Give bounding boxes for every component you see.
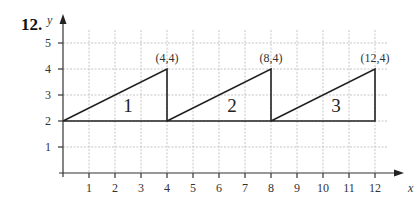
x-tick-label: 12 — [369, 181, 381, 195]
x-tick-label: 11 — [343, 181, 355, 195]
point-label: (12,4) — [361, 51, 390, 65]
x-tick-label: 3 — [138, 181, 144, 195]
x-tick-label: 10 — [317, 181, 329, 195]
y-tick-label: 1 — [45, 140, 51, 154]
labels: 12345678910111212345xy12.(4,4)(8,4)(12,4… — [21, 13, 414, 195]
problem-number: 12. — [21, 15, 42, 34]
x-tick-label: 7 — [242, 181, 248, 195]
x-tick-label: 2 — [112, 181, 118, 195]
y-tick-label: 3 — [45, 88, 51, 102]
region-label-3: 3 — [331, 95, 341, 116]
x-tick-label: 1 — [86, 181, 92, 195]
region-label-2: 2 — [227, 95, 237, 116]
y-tick-label: 5 — [45, 36, 51, 50]
region-label-1: 1 — [123, 95, 133, 116]
point-label: (8,4) — [260, 51, 283, 65]
x-tick-label: 5 — [190, 181, 196, 195]
y-tick-label: 2 — [45, 114, 51, 128]
x-tick-label: 8 — [268, 181, 274, 195]
x-tick-label: 9 — [294, 181, 300, 195]
x-axis-label: x — [407, 181, 414, 195]
y-tick-label: 4 — [45, 62, 51, 76]
x-axis-arrow-icon — [394, 170, 404, 177]
sawtooth-chart: 12345678910111212345xy12.(4,4)(8,4)(12,4… — [0, 0, 419, 197]
y-axis-arrow-icon — [60, 14, 67, 24]
x-tick-label: 4 — [164, 181, 170, 195]
x-tick-label: 6 — [216, 181, 222, 195]
point-label: (4,4) — [156, 51, 179, 65]
y-axis-label: y — [46, 13, 53, 27]
